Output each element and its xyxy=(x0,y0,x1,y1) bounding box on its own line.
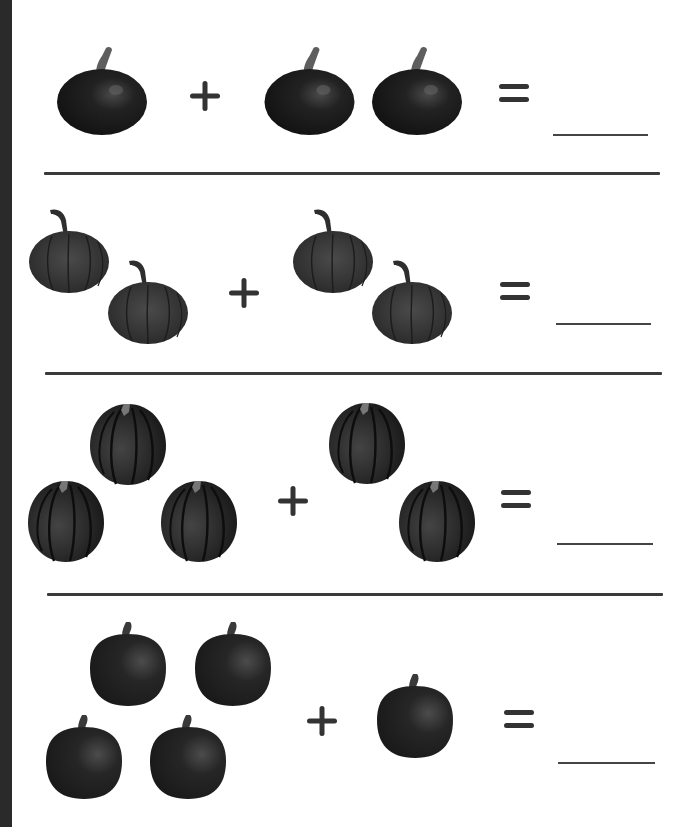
pumpkin-icon xyxy=(292,206,374,294)
divider xyxy=(44,172,660,175)
pumpkin-icon xyxy=(263,44,356,136)
pumpkin-icon xyxy=(44,713,124,801)
pumpkin-icon xyxy=(371,257,453,345)
pumpkin-icon xyxy=(56,44,148,136)
answer-blank-1[interactable] xyxy=(553,134,648,136)
pumpkin-icon xyxy=(28,206,110,294)
plus-icon: + xyxy=(307,706,337,736)
pumpkin-icon xyxy=(88,620,168,708)
equals-icon: = xyxy=(499,84,529,104)
divider xyxy=(47,593,663,596)
answer-blank-3[interactable] xyxy=(557,543,653,545)
pumpkin-icon xyxy=(375,672,455,760)
answer-blank-4[interactable] xyxy=(558,762,655,764)
equals-icon: = xyxy=(501,490,531,510)
pumpkin-icon xyxy=(193,620,273,708)
pumpkin-icon xyxy=(88,402,168,486)
answer-blank-2[interactable] xyxy=(556,323,651,325)
pumpkin-icon xyxy=(159,479,239,563)
pumpkin-icon xyxy=(371,44,463,136)
pumpkin-icon xyxy=(107,257,189,345)
pumpkin-icon xyxy=(26,479,106,563)
plus-icon: + xyxy=(190,81,220,111)
divider xyxy=(45,372,662,375)
plus-icon: + xyxy=(229,278,259,308)
plus-icon: + xyxy=(278,486,308,516)
page-edge-bar xyxy=(0,0,12,827)
pumpkin-icon xyxy=(327,401,407,485)
pumpkin-icon xyxy=(397,479,477,563)
equals-icon: = xyxy=(500,282,530,302)
pumpkin-icon xyxy=(148,713,228,801)
equals-icon: = xyxy=(504,710,534,730)
